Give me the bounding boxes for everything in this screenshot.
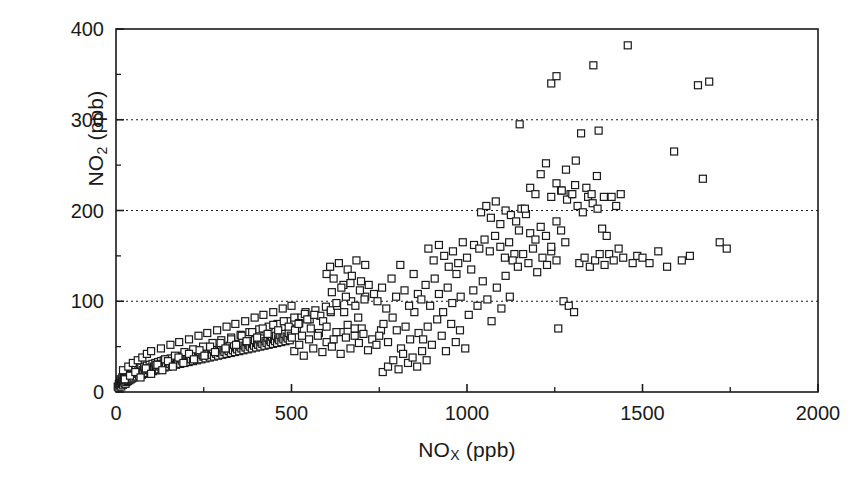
data-point <box>348 272 355 279</box>
data-point <box>483 202 490 209</box>
data-point <box>455 260 462 267</box>
data-point <box>388 275 395 282</box>
data-point <box>330 336 337 343</box>
data-point <box>300 352 307 359</box>
data-point <box>390 357 397 364</box>
x-tick-label-2000: 2000 <box>796 402 841 424</box>
data-point <box>646 260 653 267</box>
data-point <box>373 341 380 348</box>
data-point <box>599 225 606 232</box>
data-point <box>422 281 429 288</box>
data-point <box>254 334 261 341</box>
data-point <box>157 345 164 352</box>
data-point <box>562 239 569 246</box>
data-point <box>613 202 620 209</box>
data-point <box>337 350 344 357</box>
data-point <box>694 82 701 89</box>
data-point <box>620 254 627 261</box>
data-point <box>223 323 230 330</box>
data-point <box>553 180 560 187</box>
plot-canvas: 05001000150020000100200300400 <box>0 0 866 480</box>
data-point <box>465 311 472 318</box>
data-point <box>435 241 442 248</box>
data-point <box>617 191 624 198</box>
data-point <box>307 325 314 332</box>
data-point <box>323 271 330 278</box>
data-point <box>341 309 348 316</box>
data-point <box>279 305 286 312</box>
data-point <box>356 287 363 294</box>
data-point <box>211 349 218 356</box>
data-point <box>532 236 539 243</box>
data-point <box>452 339 459 346</box>
data-point <box>306 336 313 343</box>
data-point <box>351 325 358 332</box>
data-point <box>474 302 481 309</box>
data-point <box>539 254 546 261</box>
data-point <box>534 269 541 276</box>
data-point <box>515 227 522 234</box>
data-point <box>428 341 435 348</box>
x-tick-label-1000: 1000 <box>445 402 490 424</box>
data-point <box>492 232 499 239</box>
data-point <box>479 278 486 285</box>
data-point <box>233 341 240 348</box>
data-point <box>448 320 455 327</box>
x-axis-label-base: NO <box>418 438 450 461</box>
data-point <box>288 302 295 309</box>
data-point <box>514 263 521 270</box>
data-point <box>376 332 383 339</box>
data-point <box>311 311 318 318</box>
data-point <box>600 193 607 200</box>
data-point <box>579 209 586 216</box>
x-tick-label-500: 500 <box>275 402 308 424</box>
data-point <box>542 160 549 167</box>
data-point <box>578 130 585 137</box>
x-tick-label-0: 0 <box>110 402 121 424</box>
data-point <box>529 245 536 252</box>
data-point <box>327 263 334 270</box>
data-point <box>264 330 271 337</box>
data-point <box>418 296 425 303</box>
data-point <box>449 300 456 307</box>
data-point <box>456 327 463 334</box>
data-point <box>555 325 562 332</box>
data-point <box>498 305 505 312</box>
data-point <box>410 271 417 278</box>
data-point <box>419 348 426 355</box>
data-point <box>431 275 438 282</box>
data-point <box>251 314 258 321</box>
scatter-plot-figure: 05001000150020000100200300400 NO2 (ppb) … <box>0 0 866 480</box>
data-point <box>180 359 187 366</box>
data-point <box>476 245 483 252</box>
data-point <box>409 354 416 361</box>
data-point <box>148 370 155 377</box>
data-point <box>365 347 372 354</box>
y-axis-label: NO2 (ppb) <box>84 44 109 234</box>
data-point <box>352 302 359 309</box>
x-axis-label-unit: (ppb) <box>460 438 516 461</box>
data-point <box>610 257 617 264</box>
data-point <box>406 302 413 309</box>
data-point <box>351 332 358 339</box>
data-point <box>353 257 360 264</box>
data-point <box>401 287 408 294</box>
data-point <box>723 245 730 252</box>
data-point <box>260 311 267 318</box>
data-point <box>441 252 448 259</box>
data-point <box>453 271 460 278</box>
data-point <box>342 293 349 300</box>
data-point <box>470 287 477 294</box>
data-point <box>442 348 449 355</box>
data-point <box>425 245 432 252</box>
data-point <box>457 293 464 300</box>
y-axis-label-subscript: 2 <box>94 147 110 155</box>
data-point <box>243 338 250 345</box>
data-point <box>137 374 144 381</box>
data-point <box>624 42 631 49</box>
data-point <box>639 254 646 261</box>
data-point <box>214 327 221 334</box>
x-axis-label: NOX (ppb) <box>116 438 818 463</box>
data-point <box>355 340 362 347</box>
y-axis-label-base: NO <box>84 155 107 187</box>
